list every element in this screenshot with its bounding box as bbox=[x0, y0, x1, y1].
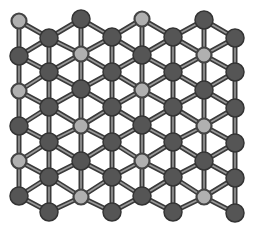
dark-atom bbox=[195, 152, 213, 170]
dark-atom bbox=[164, 98, 182, 116]
light-atom bbox=[135, 12, 150, 27]
dark-atom bbox=[226, 63, 244, 81]
dark-atom bbox=[133, 46, 151, 64]
dark-atom bbox=[103, 98, 121, 116]
light-atom bbox=[74, 47, 89, 62]
dark-atom bbox=[72, 80, 90, 98]
dark-atom bbox=[72, 10, 90, 28]
dark-atom bbox=[40, 98, 58, 116]
dark-atom bbox=[40, 133, 58, 151]
light-atom bbox=[12, 154, 27, 169]
dark-atom bbox=[72, 152, 90, 170]
dark-atom bbox=[164, 203, 182, 221]
dark-atom bbox=[164, 133, 182, 151]
dark-atom bbox=[164, 63, 182, 81]
dark-atom bbox=[40, 168, 58, 186]
dark-atom bbox=[40, 203, 58, 221]
dark-atom bbox=[226, 204, 244, 222]
light-atom bbox=[197, 119, 212, 134]
light-atom bbox=[74, 190, 89, 205]
dark-atom bbox=[195, 81, 213, 99]
light-atom bbox=[135, 83, 150, 98]
dark-atom bbox=[133, 187, 151, 205]
light-atom bbox=[12, 14, 27, 29]
light-atom bbox=[135, 154, 150, 169]
dark-atom bbox=[40, 29, 58, 47]
light-atom bbox=[197, 190, 212, 205]
dark-atom bbox=[226, 169, 244, 187]
dark-atom bbox=[164, 168, 182, 186]
dark-atom bbox=[10, 187, 28, 205]
dark-atom bbox=[103, 63, 121, 81]
dark-atom bbox=[103, 28, 121, 46]
dark-atom bbox=[10, 117, 28, 135]
dark-atom bbox=[164, 28, 182, 46]
dark-atom bbox=[133, 116, 151, 134]
dark-atom bbox=[103, 168, 121, 186]
light-atom bbox=[12, 84, 27, 99]
light-atom bbox=[197, 48, 212, 63]
dark-atom bbox=[195, 11, 213, 29]
dark-atom bbox=[226, 29, 244, 47]
dark-atom bbox=[226, 99, 244, 117]
lattice-diagram bbox=[0, 0, 256, 232]
dark-atom bbox=[103, 203, 121, 221]
dark-atom bbox=[103, 133, 121, 151]
dark-atom bbox=[40, 63, 58, 81]
dark-atom bbox=[10, 47, 28, 65]
dark-atom bbox=[226, 134, 244, 152]
light-atom bbox=[74, 119, 89, 134]
